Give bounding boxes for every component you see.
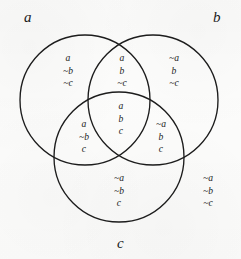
region-literal: a <box>98 100 144 113</box>
set-label-b: b <box>213 10 221 25</box>
region-a-only: a~b~c <box>45 52 91 90</box>
region-a-and-b: ab~c <box>99 52 145 90</box>
region-b-and-c: ~abc <box>138 118 184 156</box>
region-b-only: ~ab~c <box>151 52 197 90</box>
region-literal: b <box>99 65 145 78</box>
region-literal: ~a <box>96 172 142 185</box>
region-literal: ~a <box>185 172 231 185</box>
region-literal: ~b <box>45 65 91 78</box>
region-literal: ~c <box>99 77 145 90</box>
set-label-a: a <box>24 10 32 25</box>
region-literal: ~c <box>185 197 231 210</box>
region-literal: b <box>151 65 197 78</box>
region-literal: ~c <box>45 77 91 90</box>
region-literal: c <box>61 143 107 156</box>
region-literal: b <box>138 131 184 144</box>
region-c-only: ~a~bc <box>96 172 142 210</box>
region-outside: ~a~b~c <box>185 172 231 210</box>
venn-diagram-figure: a b c a~b~c ab~c ~ab~c a~bc abc ~abc ~a~… <box>0 0 241 259</box>
region-literal: ~a <box>151 52 197 65</box>
set-label-c: c <box>117 236 124 251</box>
region-literal: ~c <box>151 77 197 90</box>
region-literal: a <box>45 52 91 65</box>
region-literal: ~b <box>96 185 142 198</box>
region-literal: ~b <box>185 185 231 198</box>
region-literal: c <box>96 197 142 210</box>
region-literal: c <box>138 143 184 156</box>
region-literal: ~a <box>138 118 184 131</box>
region-literal: a <box>99 52 145 65</box>
